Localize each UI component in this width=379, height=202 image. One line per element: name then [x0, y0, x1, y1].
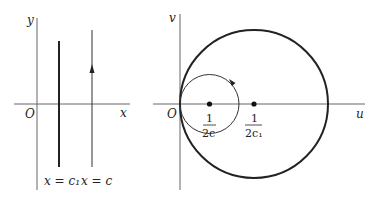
y-axis-label: y [26, 13, 34, 27]
small-center-den: 2c [202, 127, 215, 140]
right-panel: v u O 1 2c 1 2c₁ [153, 11, 365, 190]
small-center-point [207, 101, 212, 106]
left-panel: y x O x = c₁ x = c [14, 13, 130, 190]
small-center-num: 1 [206, 112, 213, 125]
x-axis-label: x [120, 106, 127, 120]
origin-label-uv: O [167, 107, 177, 121]
line-c1-label: x = c₁ [44, 174, 80, 188]
large-center-den: 2c₁ [245, 127, 263, 140]
large-center-num: 1 [251, 112, 258, 125]
origin-label: O [25, 107, 35, 121]
line-c-label: x = c [81, 174, 112, 188]
large-center-point [251, 101, 256, 106]
u-axis-label: u [356, 107, 364, 121]
arrow-up-icon [90, 64, 95, 73]
v-axis-label: v [169, 11, 176, 25]
diagram: y x O x = c₁ x = c v u O 1 2c 1 2c₁ [0, 0, 379, 202]
